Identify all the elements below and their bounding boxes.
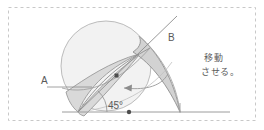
baseline-midpoint-marker[interactable] — [127, 110, 131, 114]
diagram-canvas[interactable]: A B 45° 移動 させる。 — [0, 0, 264, 130]
label-point-a: A — [41, 75, 48, 86]
lens-control-point-marker[interactable] — [115, 74, 119, 78]
annotation-note-line-1: 移動 — [204, 52, 223, 65]
label-angle: 45° — [108, 100, 123, 111]
annotation-note-line-2: させる。 — [201, 66, 239, 79]
geometry-figure: A B 45° — [0, 0, 264, 130]
label-point-b: B — [168, 32, 175, 43]
